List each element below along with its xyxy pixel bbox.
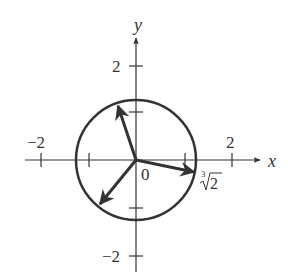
y-tick-label-neg2: −2	[102, 247, 120, 266]
complex-plane-diagram: y x 0 −2 2 2 −2 3 2	[0, 0, 294, 276]
y-axis-label: y	[132, 15, 142, 35]
y-tick-label-pos2: 2	[112, 57, 121, 76]
cbrt-index: 3	[201, 169, 206, 179]
x-tick-label-pos2: 2	[226, 133, 235, 152]
root-vector-3	[100, 160, 136, 204]
root-vector-2	[118, 106, 136, 160]
cube-root-2-label: 3 2	[200, 169, 222, 192]
cbrt-radicand: 2	[210, 175, 218, 192]
x-axis-label: x	[267, 151, 276, 171]
x-tick-label-neg2: −2	[27, 133, 45, 152]
origin-label: 0	[141, 165, 150, 184]
